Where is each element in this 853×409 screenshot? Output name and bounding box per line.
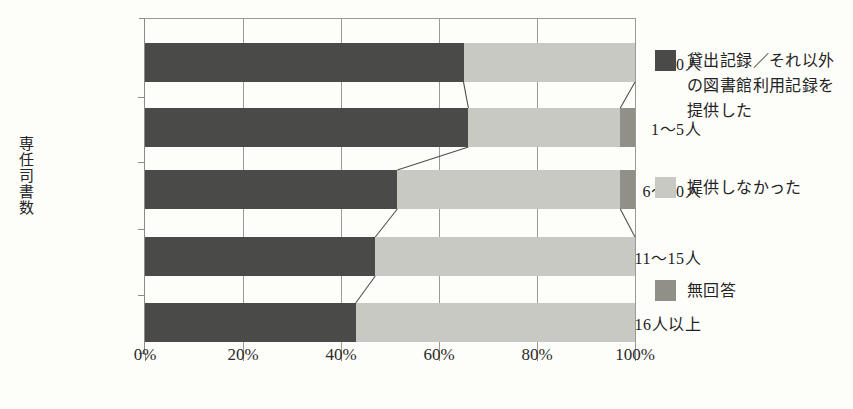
x-axis-tick-label: 40%: [325, 345, 356, 365]
legend-item-1[interactable]: 提供しなかった: [655, 175, 802, 200]
bar-segment: [145, 237, 375, 276]
y-axis-tick: [138, 97, 145, 98]
bar-segment: [375, 237, 635, 276]
connector-line: [356, 276, 376, 303]
gridline: [635, 18, 636, 354]
x-axis-tick-label: 80%: [521, 345, 552, 365]
y-axis-tick: [138, 162, 145, 163]
connector-line: [375, 209, 397, 237]
connector-line: [397, 147, 468, 170]
bar-segment: [145, 303, 356, 342]
legend-label: 貸出記録／それ以外の図書館利用記録を提供した: [687, 48, 842, 123]
connector-line: [464, 82, 469, 108]
legend-swatch-icon: [655, 50, 676, 71]
y-axis-title: 専任司書数: [8, 136, 34, 216]
x-axis-tick-label: 60%: [423, 345, 454, 365]
legend-swatch-icon: [655, 177, 676, 198]
plot-top-rule: [145, 18, 635, 19]
bar-segment: [356, 303, 635, 342]
legend-label: 無回答: [687, 278, 736, 303]
y-axis-tick: [138, 229, 145, 230]
bar-4: [145, 303, 635, 342]
x-axis-tick-label: 100%: [615, 345, 655, 365]
stacked-bar-chart: 専任司書数 0人1〜5人6〜10人11〜15人16人以上 0%20%40%60%…: [0, 0, 853, 409]
bar-segment: [145, 170, 397, 209]
category-label-4: 16人以上: [635, 311, 702, 335]
bar-segment: [620, 170, 635, 209]
bar-3: [145, 237, 635, 276]
legend-label: 提供しなかった: [687, 175, 802, 200]
legend-swatch-icon: [655, 280, 676, 301]
bar-2: [145, 170, 635, 209]
bar-segment: [145, 43, 464, 82]
bar-0: [145, 43, 635, 82]
bar-segment: [397, 170, 620, 209]
plot-area: [145, 22, 635, 350]
connector-line: [620, 82, 635, 108]
connector-line: [620, 209, 635, 237]
bar-1: [145, 108, 635, 147]
legend-item-0[interactable]: 貸出記録／それ以外の図書館利用記録を提供した: [655, 48, 842, 123]
bar-segment: [620, 108, 635, 147]
y-axis-tick: [138, 295, 145, 296]
x-axis-tick-label: 20%: [227, 345, 258, 365]
bar-segment: [468, 108, 620, 147]
bar-segment: [145, 108, 468, 147]
legend-item-2[interactable]: 無回答: [655, 278, 736, 303]
category-label-3: 11〜15人: [635, 245, 701, 269]
bar-segment: [464, 43, 636, 82]
x-axis-tick-label: 0%: [134, 345, 157, 365]
